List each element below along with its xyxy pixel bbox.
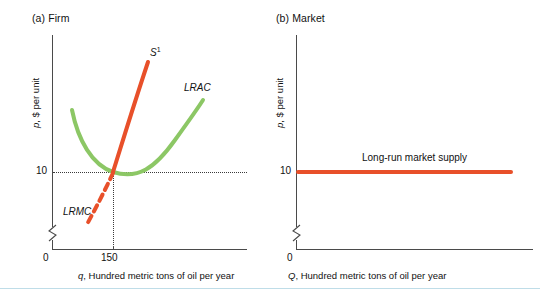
panel-b-title: (b) Market <box>276 12 325 24</box>
panel-b-y-axis-label: p, $ per unit <box>274 78 285 128</box>
panel-b-long-run-market-supply-line <box>296 170 513 174</box>
bottom-divider <box>0 288 540 289</box>
panel-b-x-axis <box>296 249 533 250</box>
panel-b-y-axis-label-var: p <box>274 123 285 128</box>
panel-b-origin-label: 0 <box>287 252 293 263</box>
panel-a-x-axis-label-unit: , Hundred metric tons of oil per year <box>83 270 234 281</box>
panel-a-lrac-curve-label: LRAC <box>184 82 211 93</box>
panel-a-curves <box>0 0 270 297</box>
panel-b-y-tick-label-10: 10 <box>280 165 291 176</box>
panel-b-axis-break-icon <box>290 224 304 244</box>
panel-b-market-supply-label: Long-run market supply <box>362 152 467 163</box>
panel-a-lrmc-curve-label: LRMC <box>63 206 91 217</box>
panel-b-x-axis-label-unit: , Hundred metric tons of oil per year <box>295 270 446 281</box>
panel-b-y-axis <box>296 35 297 227</box>
figure-container: (a) Firm p, $ per unit 10 0 150 <box>0 0 540 297</box>
panel-a-lrac-curve <box>72 100 203 174</box>
panel-a-supply-curve-label-superscript: 1 <box>157 46 161 53</box>
panel-b-y-axis-label-unit: , $ per unit <box>274 78 285 123</box>
panel-a-supply-curve-label: S1 <box>150 46 161 58</box>
panel-a-lrmc-dashed-curve <box>86 173 113 226</box>
panel-a-x-axis-label: q, Hundred metric tons of oil per year <box>78 270 234 281</box>
panel-a-supply-curve-label-text: S <box>150 47 157 58</box>
panel-a-supply-curve <box>113 62 148 172</box>
panel-b-x-axis-label: Q, Hundred metric tons of oil per year <box>288 270 446 281</box>
panel-firm: (a) Firm p, $ per unit 10 0 150 <box>0 0 270 297</box>
panel-market: (b) Market p, $ per unit 10 0 Long-run m… <box>250 0 540 297</box>
